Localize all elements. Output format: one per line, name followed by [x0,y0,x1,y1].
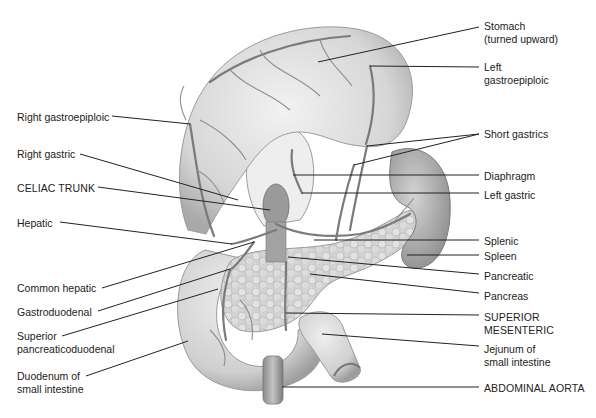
label-hepatic: Hepatic [17,217,53,230]
label-right-gastric: Right gastric [17,148,75,161]
label-stomach: Stomach (turned upward) [484,20,558,45]
label-celiac-trunk: CELIAC TRUNK [17,182,95,195]
label-jejunum: Jejunum of small intestine [484,343,551,368]
label-duodenum: Duodenum of small intestine [17,370,84,395]
label-superior-pancreaticoduodenal: Superior pancreaticoduodenal [17,330,115,355]
label-left-gastroepiploic: Left gastroepiploic [484,61,549,86]
label-left-gastric: Left gastric [484,189,535,202]
label-common-hepatic: Common hepatic [17,282,96,295]
celiac-aorta-shape [263,184,289,228]
label-abdominal-aorta: ABDOMINAL AORTA [484,382,585,395]
label-short-gastrics: Short gastrics [484,128,548,141]
label-splenic: Splenic [484,235,518,248]
anatomy-figure: Right gastroepiploic Right gastric CELIA… [0,0,596,418]
label-pancreatic: Pancreatic [484,270,534,283]
label-diaphragm: Diaphragm [484,170,535,183]
label-superior-mesenteric: SUPERIOR MESENTERIC [484,311,554,336]
aorta-shape [263,356,283,404]
label-spleen: Spleen [484,250,517,263]
label-pancreas: Pancreas [484,290,528,303]
label-gastroduodenal: Gastroduodenal [17,306,92,319]
leader-line-pancreas [310,274,479,293]
label-right-gastroepiploic: Right gastroepiploic [17,111,109,124]
leader-line-right-gastroepiploic [112,116,190,124]
